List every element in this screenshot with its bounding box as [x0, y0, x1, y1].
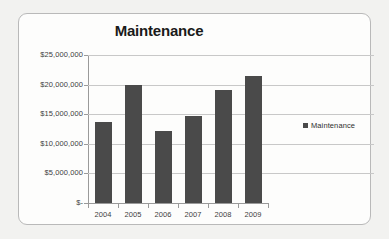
y-axis-tick-label: $15,000,000	[40, 109, 83, 118]
chart-container: Maintenance $-$5,000,000$10,000,000$15,0…	[18, 13, 371, 225]
gridline	[88, 55, 374, 56]
chart-plot-region: Maintenance $-$5,000,000$10,000,000$15,0…	[19, 14, 370, 224]
bar	[125, 85, 142, 203]
x-axis-tick-label: 2009	[238, 210, 268, 219]
x-axis-tick-label: 2007	[178, 210, 208, 219]
x-axis-tick-label: 2004	[88, 210, 118, 219]
square-marker-icon	[303, 123, 308, 128]
x-axis-tick	[118, 204, 119, 208]
chart-title: Maintenance	[19, 22, 299, 39]
x-axis-tick	[148, 204, 149, 208]
legend-item-label: Maintenance	[311, 121, 355, 130]
y-axis-tick-label: $-	[76, 198, 83, 207]
bar	[245, 76, 262, 203]
bar	[185, 116, 202, 203]
x-axis-labels: 200420052006200720082009	[88, 204, 269, 224]
chart-legend: Maintenance	[303, 121, 355, 130]
y-axis-tick-label: $25,000,000	[40, 50, 83, 59]
x-axis-tick-label: 2005	[118, 210, 148, 219]
bar	[95, 122, 112, 203]
x-axis-tick-label: 2006	[148, 210, 178, 219]
x-axis-tick-label: 2008	[208, 210, 238, 219]
y-axis-tick-label: $5,000,000	[44, 168, 83, 177]
x-axis-tick	[208, 204, 209, 208]
y-axis-labels: $-$5,000,000$10,000,000$15,000,000$20,00…	[19, 55, 83, 203]
bar	[155, 131, 172, 203]
x-axis-tick	[238, 204, 239, 208]
x-axis-tick	[178, 204, 179, 208]
x-axis-tick	[88, 204, 89, 208]
plot-area	[88, 55, 268, 203]
y-axis-tick-label: $20,000,000	[40, 80, 83, 89]
bar	[215, 90, 232, 203]
y-axis-tick-label: $10,000,000	[40, 139, 83, 148]
x-axis-tick	[268, 204, 269, 208]
